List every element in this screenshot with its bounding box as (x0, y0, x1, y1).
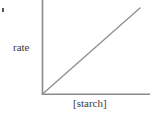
scan-speck-artifact (2, 8, 4, 12)
rate-vs-starch-chart: rate [starch] (0, 0, 155, 114)
x-axis-label: [starch] (73, 97, 107, 109)
data-line-rate (43, 8, 141, 94)
y-axis-label: rate (13, 41, 29, 53)
